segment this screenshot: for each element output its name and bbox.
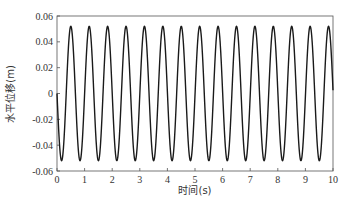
- x-axis-label: 时间(s): [178, 184, 211, 196]
- displacement-line: [57, 26, 333, 160]
- x-tick-label: 10: [328, 174, 338, 185]
- y-tick-label: 0.02: [36, 62, 54, 73]
- chart: 0123456789100.060.040.020-0.02-0.04-0.06…: [0, 0, 343, 214]
- x-tick-label: 9: [303, 174, 308, 185]
- plot-area: 0123456789100.060.040.020-0.02-0.04-0.06: [32, 11, 338, 186]
- x-tick-label: 8: [275, 174, 280, 185]
- x-tick-label: 0: [55, 174, 60, 185]
- y-tick-label: 0: [48, 88, 53, 99]
- y-tick-label: 0.04: [36, 36, 54, 47]
- x-tick-label: 1: [82, 174, 87, 185]
- x-tick-label: 7: [248, 174, 253, 185]
- y-tick-label: -0.02: [32, 114, 53, 125]
- x-tick-label: 2: [110, 174, 115, 185]
- y-axis-label: 水平位移(m): [4, 65, 16, 123]
- x-tick-label: 4: [165, 174, 170, 185]
- x-tick-label: 3: [137, 174, 142, 185]
- y-tick-label: -0.04: [32, 140, 53, 151]
- y-tick-label: 0.06: [36, 11, 54, 22]
- y-tick-label: -0.06: [32, 166, 53, 177]
- x-tick-label: 5: [193, 174, 198, 185]
- x-tick-label: 6: [220, 174, 225, 185]
